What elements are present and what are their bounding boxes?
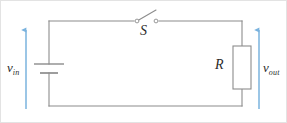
output-voltage-label-base: v bbox=[263, 60, 269, 75]
input-voltage-label-subscript: in bbox=[13, 68, 20, 77]
input-voltage-label: vin bbox=[7, 61, 19, 74]
resistor-symbol bbox=[233, 46, 251, 89]
input-voltage-label-base: v bbox=[7, 60, 13, 75]
switch-label: S bbox=[140, 24, 147, 38]
battery-symbol bbox=[34, 64, 64, 73]
switch-terminal-right[interactable] bbox=[154, 19, 158, 23]
switch-blade[interactable] bbox=[137, 10, 156, 21]
output-voltage-label-subscript: out bbox=[269, 68, 280, 77]
switch-symbol[interactable] bbox=[135, 10, 158, 23]
output-voltage-label: vout bbox=[263, 61, 280, 74]
switch-terminal-left[interactable] bbox=[135, 19, 139, 23]
circuit-schematic-canvas bbox=[1, 1, 287, 123]
circuit-diagram: vin vout S R bbox=[0, 0, 287, 123]
resistor-label: R bbox=[215, 58, 224, 72]
